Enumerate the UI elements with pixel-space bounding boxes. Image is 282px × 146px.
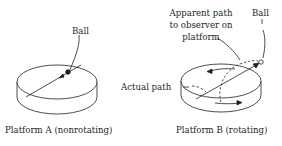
platform-b-apparent-path-label-3: platform bbox=[166, 33, 236, 42]
platform-b-ball-icon bbox=[259, 60, 263, 64]
platform-a bbox=[17, 35, 97, 114]
platform-a-ball-icon bbox=[66, 70, 71, 75]
platform-b-actual-arrowhead-icon bbox=[253, 63, 259, 68]
platform-a-top bbox=[17, 65, 97, 99]
platform-a-ball-leader bbox=[70, 35, 79, 70]
platform-b-ball-leader bbox=[262, 19, 265, 58]
platform-a-caption: Platform A (nonrotating) bbox=[5, 126, 112, 135]
platform-b-apparent-path-label-1: Apparent path bbox=[166, 9, 236, 18]
platform-b-ball-label: Ball bbox=[252, 9, 269, 18]
platform-b-caption: Platform B (rotating) bbox=[176, 126, 267, 135]
platform-b-actual-path-label: Actual path bbox=[121, 83, 171, 92]
platform-a-ball-label: Ball bbox=[72, 27, 89, 36]
platform-b-apparent-path-label-2: to observer on bbox=[164, 21, 238, 30]
